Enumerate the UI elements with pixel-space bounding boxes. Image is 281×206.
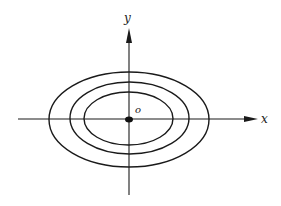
origin-point (125, 117, 133, 123)
x-axis (18, 116, 258, 122)
x-axis-label: x (261, 112, 268, 126)
origin-label: o (135, 104, 141, 115)
y-axis-label: y (123, 11, 131, 25)
diagram-canvas: y x o (0, 0, 281, 206)
y-axis (126, 28, 132, 195)
x-axis-arrow-icon (244, 116, 258, 122)
y-axis-arrow-icon (126, 28, 132, 43)
